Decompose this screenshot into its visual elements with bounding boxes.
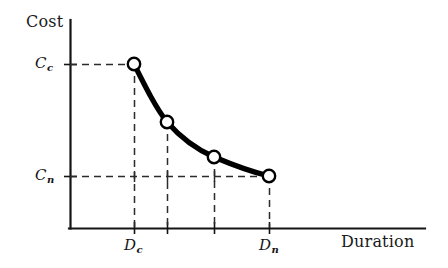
x-tick-subscript-dn: n bbox=[272, 244, 279, 255]
y-tick-symbol-cn: C bbox=[35, 166, 46, 184]
chart-figure: Cost Duration Cc Cn Dc Dn bbox=[0, 0, 448, 268]
data-point-normal bbox=[263, 170, 275, 182]
data-point-3 bbox=[208, 151, 220, 163]
x-axis-title: Duration bbox=[341, 232, 414, 251]
y-tick-symbol-cc: C bbox=[35, 54, 46, 72]
data-point-2 bbox=[161, 116, 173, 128]
x-tick-symbol-dn: D bbox=[259, 236, 271, 254]
cost-duration-plot bbox=[0, 0, 448, 268]
y-tick-subscript-cn: n bbox=[47, 174, 54, 185]
y-tick-label-normal-cost: Cn bbox=[35, 166, 54, 184]
x-tick-symbol-dc: D bbox=[124, 236, 136, 254]
axes-group bbox=[69, 20, 425, 229]
x-tick-subscript-dc: c bbox=[137, 244, 143, 255]
x-tick-label-crash-duration: Dc bbox=[124, 236, 142, 254]
vertical-guide-lines bbox=[135, 64, 270, 228]
data-point-markers bbox=[128, 58, 275, 182]
x-tick-label-normal-duration: Dn bbox=[259, 236, 278, 254]
cost-duration-curve bbox=[134, 64, 269, 176]
y-tick-label-crash-cost: Cc bbox=[35, 54, 53, 72]
y-axis-title: Cost bbox=[26, 12, 63, 31]
data-point-crash bbox=[128, 58, 140, 70]
y-tick-subscript-cc: c bbox=[47, 62, 53, 73]
